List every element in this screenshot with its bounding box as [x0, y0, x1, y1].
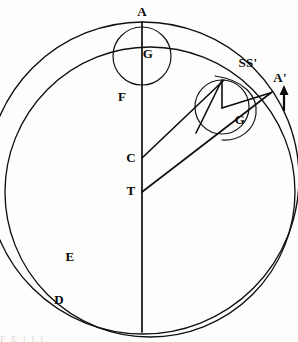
- label-A-prime: A': [273, 70, 287, 85]
- label-A: A: [137, 4, 147, 19]
- radius-t-to-a-prime: [142, 92, 272, 192]
- radius-c-to-ss: [142, 80, 224, 158]
- label-F: F: [118, 89, 126, 104]
- label-D: D: [54, 292, 64, 307]
- label-SS-prime: SS': [239, 55, 258, 70]
- chord-ss-lower-left: [196, 80, 222, 133]
- direction-of-motion-arrow: [280, 85, 289, 111]
- geometric-diagram: A G F SS' A' G C T E D: [0, 0, 298, 342]
- eccentric-inner-circle: [5, 47, 295, 337]
- cropped-caption-text: F E l l l: [0, 332, 298, 342]
- label-E: E: [66, 249, 75, 264]
- label-T: T: [127, 183, 136, 198]
- figure-canvas: A G F SS' A' G C T E D F E l l l: [0, 0, 298, 342]
- label-C: C: [126, 150, 136, 165]
- label-G-right: G: [235, 112, 245, 127]
- label-G-upper: G: [143, 46, 153, 61]
